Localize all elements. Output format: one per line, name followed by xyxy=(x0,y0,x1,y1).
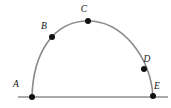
point-marker-c xyxy=(85,18,91,24)
point-marker-a xyxy=(29,94,35,100)
point-label-b: B xyxy=(41,22,47,32)
point-label-c: C xyxy=(81,5,87,15)
point-marker-e xyxy=(150,93,156,99)
point-label-d: D xyxy=(144,55,151,65)
point-label-a: A xyxy=(13,80,19,90)
point-marker-b xyxy=(49,34,55,40)
geometry-figure: ABCDE xyxy=(0,0,171,108)
point-marker-d xyxy=(141,66,147,72)
point-label-e: E xyxy=(154,82,160,92)
